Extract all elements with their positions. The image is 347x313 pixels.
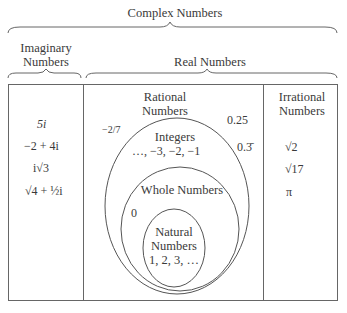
imaginary-label-line1: Imaginary [10, 41, 82, 55]
natural-label-line1: Natural [146, 225, 202, 239]
rational-example-quarter: 0.25 [227, 113, 248, 128]
rational-label-line2: Numbers [130, 104, 200, 118]
imaginary-example: √4 + ½i [25, 184, 63, 199]
integers-label: Integers [145, 130, 205, 144]
real-numbers-label: Real Numbers [165, 55, 255, 69]
rational-label-line1: Rational [130, 90, 200, 104]
imaginary-example: 5i [37, 117, 46, 132]
rational-example-repeating: 0.3̄ [237, 140, 252, 155]
imaginary-example: −2 + 4i [24, 139, 59, 154]
whole-example: 0 [131, 206, 137, 221]
irrational-label-line1: Irrational [268, 90, 336, 104]
natural-numbers-label: Natural Numbers 1, 2, 3, … [146, 225, 202, 267]
natural-label-line2: Numbers [146, 239, 202, 253]
integers-examples: …, −3, −2, −1 [132, 144, 200, 159]
imaginary-numbers-label: Imaginary Numbers [10, 41, 82, 69]
imaginary-brace [8, 69, 81, 78]
rational-example-neg-two-sevenths: −2/7 [102, 124, 120, 135]
imaginary-example: i√3 [33, 161, 49, 176]
complex-brace [8, 22, 337, 33]
rational-numbers-label: Rational Numbers [130, 90, 200, 118]
complex-numbers-label: Complex Numbers [110, 6, 240, 20]
irrational-label-line2: Numbers [268, 104, 336, 118]
irrational-example: √17 [285, 162, 304, 177]
imaginary-label-line2: Numbers [10, 55, 82, 69]
natural-examples: 1, 2, 3, … [146, 253, 202, 267]
irrational-numbers-label: Irrational Numbers [268, 90, 336, 118]
real-brace [86, 69, 337, 78]
irrational-example: √2 [285, 140, 298, 155]
whole-numbers-label: Whole Numbers [132, 183, 232, 197]
irrational-example: π [286, 185, 292, 200]
